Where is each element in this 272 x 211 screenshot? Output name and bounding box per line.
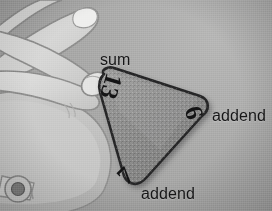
label-sum: sum xyxy=(100,52,131,68)
label-addend-right: addend xyxy=(212,108,266,124)
label-addend-bottom: addend xyxy=(141,186,195,202)
screenshot-canvas: 13 6 7 sum addend addend xyxy=(0,0,272,211)
